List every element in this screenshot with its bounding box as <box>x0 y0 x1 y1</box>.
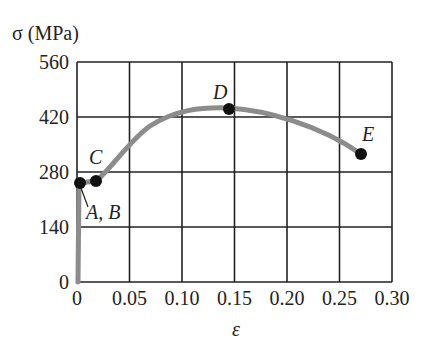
point-c <box>90 175 102 187</box>
svg-text:0: 0 <box>72 287 82 309</box>
y-tick-labels: 0 140 280 420 560 <box>39 51 69 293</box>
svg-text:0.30: 0.30 <box>375 287 410 309</box>
svg-text:0.20: 0.20 <box>270 287 305 309</box>
svg-text:0.25: 0.25 <box>322 287 357 309</box>
x-tick-labels: 0 0.05 0.10 0.15 0.20 0.25 0.30 <box>72 287 410 309</box>
stress-strain-chart: A, B C D E 0 140 280 420 560 0 0.05 0.10… <box>0 0 440 362</box>
grid <box>77 62 392 282</box>
svg-text:560: 560 <box>39 51 69 73</box>
label-e: E <box>361 123 374 145</box>
svg-text:0: 0 <box>59 271 69 293</box>
svg-text:0.15: 0.15 <box>217 287 252 309</box>
label-d: D <box>212 81 228 103</box>
label-a-b: A, B <box>84 201 120 223</box>
svg-text:420: 420 <box>39 106 69 128</box>
point-d <box>223 103 235 115</box>
svg-text:0.10: 0.10 <box>165 287 200 309</box>
label-c: C <box>89 146 103 168</box>
x-axis-label: ε <box>232 318 240 340</box>
svg-text:0.05: 0.05 <box>112 287 147 309</box>
svg-text:280: 280 <box>39 161 69 183</box>
point-e <box>355 148 367 160</box>
point-a-b <box>74 177 86 189</box>
stress-strain-curve <box>78 108 361 282</box>
svg-text:140: 140 <box>39 216 69 238</box>
y-axis-label: σ (MPa) <box>12 22 79 45</box>
